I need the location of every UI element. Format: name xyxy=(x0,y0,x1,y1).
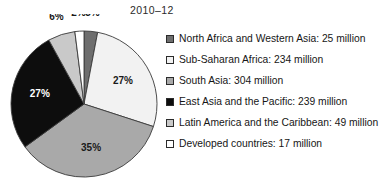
pie-slice-percent-label: 2% xyxy=(71,14,86,18)
legend-item-label: Latin America and the Caribbean: 49 mill… xyxy=(179,116,378,129)
pie-slice-percent-label: 6% xyxy=(49,14,64,22)
legend-item-label: South Asia: 304 million xyxy=(179,74,283,87)
legend-swatch-icon xyxy=(166,140,174,148)
legend-swatch-icon xyxy=(166,56,174,64)
legend-item-label: North Africa and Western Asia: 25 millio… xyxy=(179,32,365,45)
legend-item[interactable]: North Africa and Western Asia: 25 millio… xyxy=(166,32,388,45)
pie-slice-percent-label: 35% xyxy=(81,142,101,153)
legend-item-label: Developed countries: 17 million xyxy=(179,137,322,150)
legend-item-label: Sub-Saharan Africa: 234 million xyxy=(179,53,323,66)
legend-swatch-icon xyxy=(166,77,174,85)
pie-slice-percent-label: 27% xyxy=(113,75,133,86)
pie-slice-percent-label: 27% xyxy=(30,88,50,99)
legend-item[interactable]: East Asia and the Pacific: 239 million xyxy=(166,95,388,108)
legend-item[interactable]: South Asia: 304 million xyxy=(166,74,388,87)
pie-chart-svg: 3%27%35%27%6%2% xyxy=(0,14,170,190)
legend-swatch-icon xyxy=(166,119,174,127)
legend-item[interactable]: Developed countries: 17 million xyxy=(166,137,388,150)
legend-swatch-icon xyxy=(166,98,174,106)
pie-slice-percent-label: 3% xyxy=(85,14,100,18)
pie-slice-group xyxy=(11,31,157,177)
legend-item[interactable]: Latin America and the Caribbean: 49 mill… xyxy=(166,116,388,129)
chart-legend: North Africa and Western Asia: 25 millio… xyxy=(166,32,388,158)
legend-swatch-icon xyxy=(166,35,174,43)
pie-chart-plot-area: 3%27%35%27%6%2% xyxy=(0,14,170,190)
legend-item[interactable]: Sub-Saharan Africa: 234 million xyxy=(166,53,388,66)
legend-item-label: East Asia and the Pacific: 239 million xyxy=(179,95,347,108)
pie-chart-figure: 2010–12 3%27%35%27%6%2% North Africa and… xyxy=(0,0,391,190)
